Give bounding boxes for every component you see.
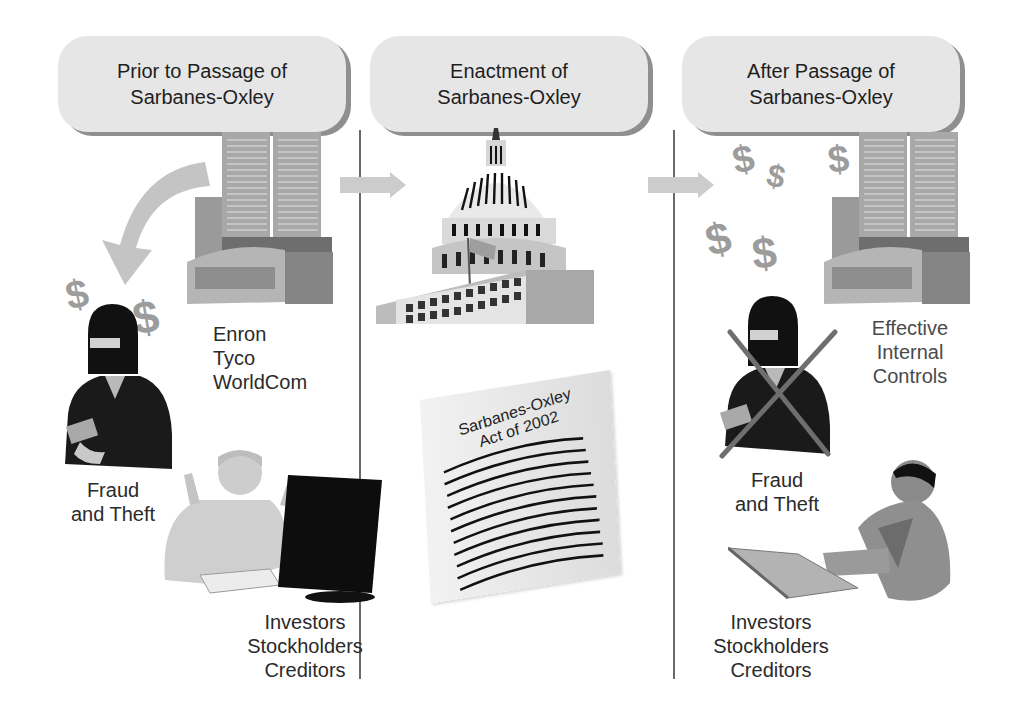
header-after-passage: After Passage of Sarbanes-Oxley	[682, 36, 960, 132]
controls-line: Controls	[855, 364, 965, 388]
act-document: Sarbanes-Oxley Act of 2002	[420, 370, 620, 603]
fraud-line: Fraud	[722, 468, 832, 492]
header-line: Sarbanes-Oxley	[747, 84, 895, 110]
header-line: Sarbanes-Oxley	[117, 84, 287, 110]
company-name: WorldCom	[213, 370, 307, 394]
divider-right	[673, 130, 675, 679]
fraud-label: Fraud and Theft	[722, 468, 832, 516]
stakeholders-label: Investors Stockholders Creditors	[696, 610, 846, 682]
crossed-out-thief-icon	[710, 296, 840, 466]
controls-line: Internal	[855, 340, 965, 364]
controls-line: Effective	[855, 316, 965, 340]
company-name: Tyco	[213, 346, 307, 370]
header-line: After Passage of	[747, 58, 895, 84]
stakeholder-name: Stockholders	[696, 634, 846, 658]
corporate-building-icon	[185, 122, 335, 308]
stakeholder-name: Creditors	[230, 658, 380, 682]
header-line: Enactment of	[437, 58, 580, 84]
companies-label: Enron Tyco WorldCom	[213, 322, 307, 394]
dollar-icon: $	[700, 212, 736, 266]
stakeholder-name: Creditors	[696, 658, 846, 682]
stakeholder-name: Stockholders	[230, 634, 380, 658]
header-prior-to-passage: Prior to Passage of Sarbanes-Oxley	[58, 36, 346, 132]
arrow-right-icon	[648, 172, 718, 198]
header-line: Sarbanes-Oxley	[437, 84, 580, 110]
stakeholder-name: Investors	[230, 610, 380, 634]
upset-investor-icon	[160, 445, 390, 605]
dollar-icon: $	[749, 227, 779, 279]
controls-label: Effective Internal Controls	[855, 316, 965, 388]
stakeholder-name: Investors	[696, 610, 846, 634]
fraud-line: and Theft	[722, 492, 832, 516]
corporate-building-icon	[822, 122, 972, 308]
dollar-icon: $	[729, 136, 759, 182]
dollar-icon: $	[763, 157, 788, 197]
fraud-line: Fraud	[58, 478, 168, 502]
fraud-label: Fraud and Theft	[58, 478, 168, 526]
company-name: Enron	[213, 322, 307, 346]
header-enactment: Enactment of Sarbanes-Oxley	[370, 36, 648, 132]
header-line: Prior to Passage of	[117, 58, 287, 84]
capitol-building-icon	[376, 128, 596, 324]
fraud-line: and Theft	[58, 502, 168, 526]
stakeholders-label: Investors Stockholders Creditors	[230, 610, 380, 682]
